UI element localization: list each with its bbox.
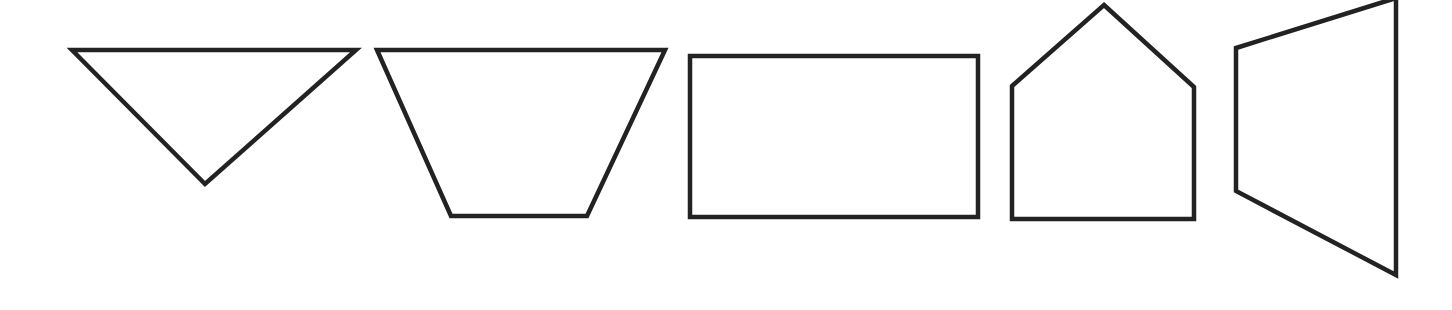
inverted-triangle — [72, 50, 356, 184]
rectangle — [690, 56, 978, 217]
house-pentagon — [1012, 5, 1194, 219]
shapes-canvas — [0, 0, 1452, 310]
side-trapezoid — [1236, 0, 1396, 275]
inverted-trapezoid — [377, 50, 665, 216]
